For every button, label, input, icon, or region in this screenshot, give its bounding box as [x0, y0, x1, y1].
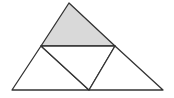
top-shaded-triangle	[41, 3, 115, 46]
triangle-diagram	[0, 0, 174, 98]
